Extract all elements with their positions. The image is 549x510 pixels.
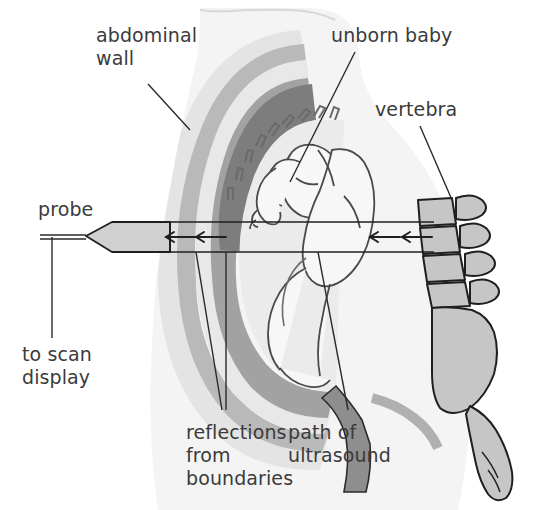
sacrum: [432, 307, 497, 413]
label-unborn-baby: unborn baby: [331, 24, 452, 47]
vertebra-body-4: [427, 282, 470, 308]
label-abdominal-wall: abdominal wall: [96, 24, 197, 70]
label-path-of-ultrasound: path of ultrasound: [288, 421, 391, 467]
label-to-scan-display: to scan display: [22, 343, 92, 389]
vertebra-process-3: [465, 251, 495, 275]
label-vertebra: vertebra: [375, 98, 457, 121]
vertebra-body-2: [420, 226, 460, 254]
vertebra-process-2: [460, 223, 490, 247]
ultrasound-diagram-figure: abdominal wall unborn baby vertebra prob…: [0, 0, 549, 510]
probe-body: [86, 222, 170, 252]
vertebra-body-3: [423, 254, 465, 282]
ultrasound-probe: [40, 222, 170, 252]
vertebra-process-4: [470, 279, 499, 303]
coccyx: [466, 406, 512, 500]
leader-abdominal-wall: [148, 84, 190, 130]
label-probe: probe: [38, 198, 93, 221]
vertebra-process-1: [456, 195, 486, 219]
label-reflections-from-boundaries: reflections from boundaries: [186, 421, 293, 490]
